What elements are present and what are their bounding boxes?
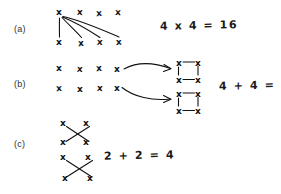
result-group-square-2: x x x x [176,90,206,116]
hand-drawn-strokes-layer [0,0,281,194]
worksheet-canvas: (a) x x x x x x x x 4 x 4 = 16 (b) x x x… [0,0,281,194]
cross-group-1: x x x x [60,119,94,147]
mark-x: x [195,76,201,85]
mark-x: x [96,64,102,73]
mark-x: x [195,90,201,99]
mark-x: x [195,107,201,116]
mark-x: x [114,84,120,93]
equation-c: 2 + 2 = 4 [104,148,175,162]
mark-x: x [176,59,182,68]
mark-x: x [62,174,68,183]
mark-x: x [176,107,182,116]
curved-arrow-lower-head [164,96,172,103]
mark-x: x [83,119,89,128]
mark-x: x [56,84,62,93]
mark-x: x [77,65,83,74]
mark-x: x [97,38,103,47]
equation-b: 4 + 4 = 8 [219,78,281,92]
cross-group-2: x x x x [60,153,94,181]
mark-x: x [83,138,89,147]
curved-arrow-upper-head [164,65,172,72]
mark-x: x [176,90,182,99]
mark-x: x [114,65,120,74]
row-label-a: (a) [14,24,26,34]
mark-x: x [116,38,122,47]
mark-x: x [115,8,121,17]
mark-x: x [85,153,91,162]
mark-x: x [56,38,62,47]
mark-x: x [77,8,83,17]
mark-x: x [56,64,62,73]
mark-x: x [96,9,102,18]
mark-x: x [97,84,103,93]
mark-x: x [56,8,62,17]
mark-x: x [60,119,66,128]
row-label-b: (b) [14,79,26,89]
connector-line-4 [63,17,119,38]
curved-arrow-upper [124,64,171,69]
mark-x: x [78,39,84,48]
equation-a: 4 x 4 = 16 [160,18,238,32]
mark-x: x [87,174,93,183]
result-group-square-1: x x x x [176,59,206,85]
mark-x: x [77,85,83,94]
row-label-c: (c) [14,139,25,149]
connector-line-2 [62,18,82,38]
mark-x: x [176,76,182,85]
mark-x: x [195,59,201,68]
curved-arrow-lower [122,88,170,100]
mark-x: x [60,138,66,147]
mark-x: x [60,153,66,162]
connector-line-3 [63,17,101,38]
